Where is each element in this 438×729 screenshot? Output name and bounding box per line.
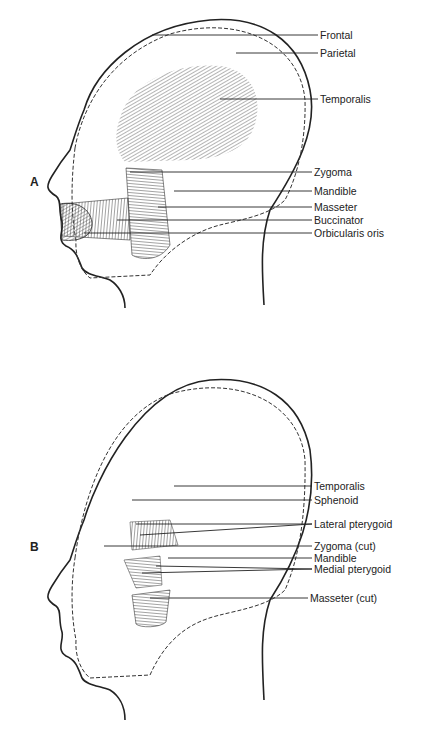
label-frontal: Frontal <box>320 29 353 41</box>
label-orbicularis-oris: Orbicularis oris <box>314 227 384 239</box>
head-a <box>48 20 318 308</box>
label-sphenoid: Sphenoid <box>314 494 358 506</box>
panel-b-letter: B <box>30 540 39 554</box>
label-masseter: Masseter <box>314 201 357 213</box>
label-lateral-pterygoid: Lateral pterygoid <box>314 518 392 530</box>
label-medial-pterygoid: Medial pterygoid <box>314 563 391 575</box>
panel-a-letter: A <box>30 175 39 189</box>
head-b <box>48 380 312 720</box>
label-masseter-cut: Masseter (cut) <box>310 592 377 604</box>
label-mandible-a: Mandible <box>314 185 357 197</box>
label-buccinator: Buccinator <box>314 214 364 226</box>
anatomy-figure <box>0 0 438 729</box>
label-temporalis-a: Temporalis <box>320 93 371 105</box>
label-zygoma: Zygoma <box>314 166 352 178</box>
label-temporalis-b: Temporalis <box>314 480 365 492</box>
label-parietal: Parietal <box>320 47 356 59</box>
label-zygoma-cut: Zygoma (cut) <box>314 540 376 552</box>
